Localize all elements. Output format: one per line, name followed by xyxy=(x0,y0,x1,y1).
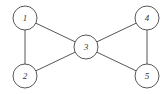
node-label: 5 xyxy=(145,71,150,81)
node-5: 5 xyxy=(135,64,159,88)
node-3: 3 xyxy=(74,35,98,59)
node-label: 3 xyxy=(83,42,89,52)
node-label: 2 xyxy=(23,71,28,81)
node-label: 1 xyxy=(23,13,28,23)
node-4: 4 xyxy=(135,6,159,30)
node-label: 4 xyxy=(145,13,150,23)
graph-diagram: 1 2 3 4 5 xyxy=(0,0,168,94)
node-1: 1 xyxy=(13,6,37,30)
node-2: 2 xyxy=(13,64,37,88)
